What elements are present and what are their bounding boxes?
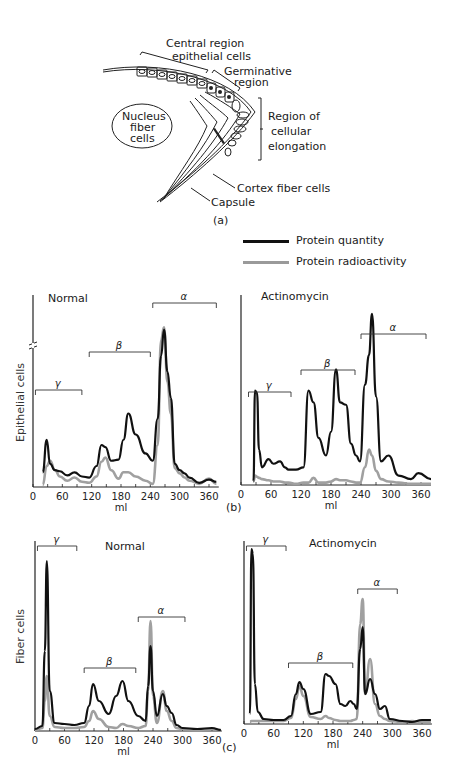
- x-tick-label: 300: [173, 735, 192, 746]
- x-tick-label: 300: [170, 491, 189, 502]
- x-tick-label: 0: [30, 491, 36, 502]
- x-tick-label: 300: [383, 728, 402, 739]
- x-axis-label: ml: [325, 500, 338, 511]
- chart-title: Normal: [48, 293, 88, 305]
- x-axis-label: ml: [327, 739, 340, 750]
- chart-c-normal: [35, 541, 222, 731]
- fraction-bracket: [35, 390, 81, 395]
- x-tick-label: 120: [291, 489, 310, 500]
- fraction-bracket: [89, 352, 150, 357]
- fraction-label: β: [116, 340, 122, 352]
- fraction-label: γ: [266, 380, 272, 392]
- series-protein-radioactivity: [254, 450, 432, 484]
- x-axis-label: ml: [115, 502, 128, 513]
- chart-title: Actinomycin: [261, 291, 329, 303]
- chart-title: Actinomycin: [309, 538, 377, 550]
- chart-b-normal: [29, 295, 219, 487]
- x-tick-label: 360: [199, 491, 218, 502]
- x-tick-label: 240: [141, 491, 160, 502]
- x-tick-label: 120: [84, 735, 103, 746]
- x-tick-label: 120: [82, 491, 101, 502]
- x-tick-label: 360: [411, 489, 430, 500]
- x-tick-label: 0: [32, 735, 38, 746]
- x-tick-label: 240: [351, 489, 370, 500]
- fraction-label: γ: [55, 378, 61, 390]
- fraction-bracket: [358, 589, 398, 594]
- caption-b: (b): [226, 502, 242, 514]
- chart-title: Normal: [105, 541, 145, 553]
- x-tick-label: 60: [267, 728, 280, 739]
- x-tick-label: 180: [111, 491, 130, 502]
- chart-c-actinomycin: [244, 541, 432, 724]
- fraction-bracket: [289, 663, 353, 668]
- x-tick-label: 180: [321, 489, 340, 500]
- x-tick-label: 240: [353, 728, 372, 739]
- fraction-bracket: [153, 303, 217, 308]
- row-label-fiber: Fiber cells: [14, 609, 27, 664]
- x-tick-label: 0: [241, 728, 247, 739]
- caption-c: (c): [222, 742, 237, 754]
- series-protein-quantity: [250, 549, 431, 722]
- x-tick-label: 300: [381, 489, 400, 500]
- fraction-label: β: [106, 656, 112, 668]
- x-tick-label: 120: [294, 728, 313, 739]
- fraction-label: γ: [53, 534, 59, 546]
- x-tick-label: 180: [323, 728, 342, 739]
- fraction-bracket: [301, 370, 355, 375]
- x-tick-label: 60: [56, 491, 69, 502]
- fraction-label: α: [158, 605, 165, 617]
- series-protein-quantity: [35, 561, 221, 730]
- x-tick-label: 60: [58, 735, 71, 746]
- x-tick-label: 360: [202, 735, 221, 746]
- fraction-bracket: [84, 668, 136, 673]
- fraction-bracket: [138, 617, 185, 622]
- x-tick-label: 0: [238, 489, 244, 500]
- row-label-epithelial: Epithelial cells: [14, 363, 27, 442]
- chromatography-charts: [0, 0, 455, 758]
- fraction-label: α: [390, 322, 397, 334]
- fraction-label: α: [374, 577, 381, 589]
- x-tick-label: 240: [143, 735, 162, 746]
- series-protein-radioactivity: [35, 621, 221, 730]
- x-tick-label: 180: [114, 735, 133, 746]
- fraction-label: β: [324, 358, 330, 370]
- fraction-label: α: [181, 291, 188, 303]
- fraction-label: γ: [262, 534, 268, 546]
- x-tick-label: 60: [265, 489, 278, 500]
- series-protein-radioactivity: [43, 327, 217, 485]
- x-axis-label: ml: [117, 746, 130, 757]
- series-protein-quantity: [254, 314, 432, 482]
- fraction-label: β: [317, 651, 323, 663]
- series-protein-quantity: [43, 330, 217, 483]
- x-tick-label: 360: [412, 728, 431, 739]
- fraction-bracket: [37, 546, 76, 551]
